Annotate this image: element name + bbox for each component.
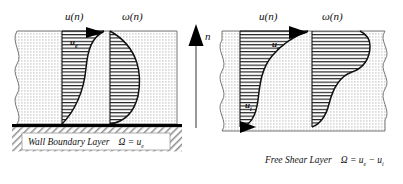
n-axis-arrowhead-icon (189, 24, 204, 46)
left-vorticity-header: ω(n) (122, 10, 143, 23)
left-panel-stipple-region (15, 31, 177, 124)
figure-container: ue Wall Boundary LayerΩ = ue n (0, 0, 403, 184)
left-caption-text: Wall Boundary LayerΩ = ue (28, 137, 144, 149)
right-vorticity-header: ω(n) (322, 10, 343, 23)
wall-surface-line (12, 124, 182, 127)
n-axis-label: n (205, 30, 211, 42)
left-velocity-header: u(n) (65, 10, 84, 23)
right-caption-text: Free Shear LayerΩ = ue − ui (264, 155, 384, 167)
left-caption-box: Wall Boundary LayerΩ = ue (22, 133, 170, 150)
left-panel-field (15, 31, 177, 124)
diagram-canvas: ue Wall Boundary LayerΩ = ue n (0, 0, 403, 184)
right-velocity-header: u(n) (259, 10, 278, 23)
vertical-axis-n: n (189, 24, 212, 128)
